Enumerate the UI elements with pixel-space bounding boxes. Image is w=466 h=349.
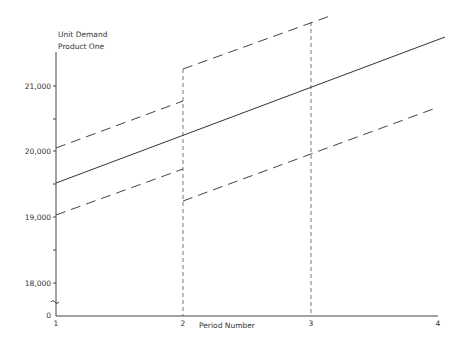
x-tick-1: 1 — [54, 319, 59, 328]
upper-bound-2 — [183, 16, 330, 69]
x-tick-2: 2 — [181, 319, 186, 328]
y-tick-19000: 19,000 — [25, 213, 51, 222]
chart: Unit Demand Product One 21,000 20,000 19… — [0, 0, 466, 349]
y-axis-label-line2: Product One — [58, 42, 105, 51]
y-tick-18000: 18,000 — [25, 279, 51, 288]
x-tick-4: 4 — [436, 319, 441, 328]
y-tick-20000: 20,000 — [25, 147, 51, 156]
trend-line — [56, 37, 445, 183]
y-tick-21000: 21,000 — [25, 82, 51, 91]
axis-break-icon — [51, 301, 59, 304]
upper-bound-1 — [56, 101, 183, 148]
x-axis-label: Period Number — [199, 321, 256, 330]
lower-bound-2 — [183, 108, 436, 201]
x-tick-3: 3 — [309, 319, 314, 328]
y-axis-label-line1: Unit Demand — [58, 30, 108, 39]
y-tick-0: 0 — [46, 311, 51, 320]
